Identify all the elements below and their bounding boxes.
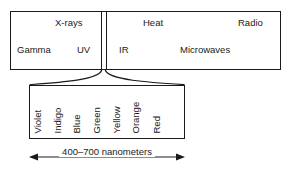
color-label-indigo: Indigo	[53, 107, 63, 133]
color-label-red: Red	[152, 116, 162, 133]
color-label-violet: Violet	[33, 109, 43, 133]
visible-light-divider-left	[101, 11, 102, 70]
band-label-radio: Radio	[238, 18, 263, 28]
band-label-x-rays: X-rays	[55, 18, 82, 28]
wavelength-range-text: 400–700 nanometers	[59, 146, 155, 157]
color-label-green: Green	[92, 107, 102, 133]
wavelength-range-caption: 400–700 nanometers	[29, 147, 185, 157]
band-label-microwaves: Microwaves	[180, 45, 230, 55]
electromagnetic-spectrum-diagram: X-rays Gamma UV Heat Radio IR Microwaves…	[0, 0, 293, 174]
visible-light-colors-box: Violet Indigo Blue Green Yellow Orange R…	[29, 85, 185, 139]
band-label-gamma: Gamma	[17, 45, 51, 55]
color-label-yellow: Yellow	[112, 106, 122, 133]
color-label-blue: Blue	[72, 114, 82, 133]
band-label-heat: Heat	[143, 18, 163, 28]
band-label-ir: IR	[119, 45, 129, 55]
visible-light-divider-right	[106, 11, 107, 70]
color-label-orange: Orange	[131, 101, 141, 133]
band-label-uv: UV	[77, 45, 90, 55]
